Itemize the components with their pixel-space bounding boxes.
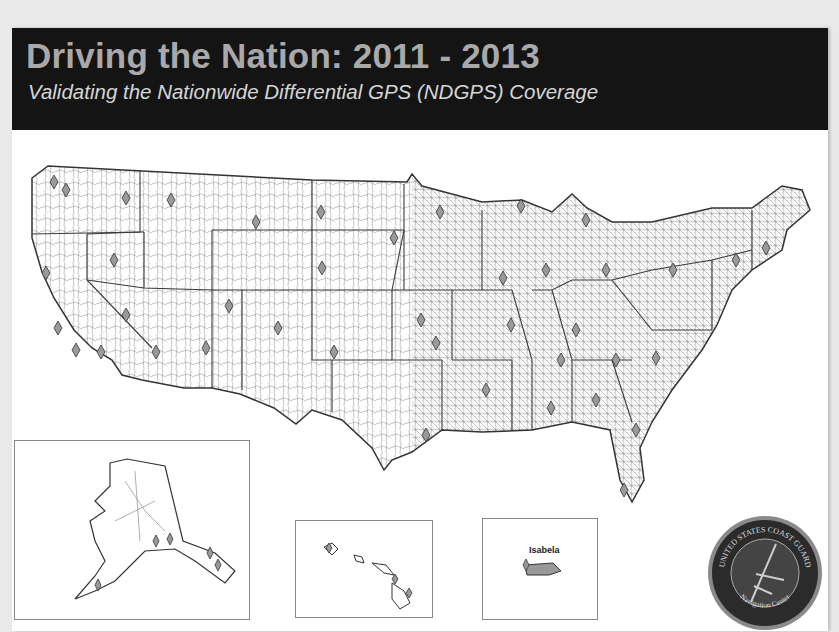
- map-area: Isabela UNITED STATES COAST GUARD Naviga…: [12, 130, 828, 631]
- header-banner: Driving the Nation: 2011 - 2013 Validati…: [12, 28, 828, 130]
- isabela-label: Isabela: [529, 545, 560, 555]
- alaska-map: [15, 441, 249, 619]
- poster: Driving the Nation: 2011 - 2013 Validati…: [12, 28, 828, 631]
- puerto-rico-inset: Isabela: [482, 518, 598, 620]
- page-subtitle: Validating the Nationwide Differential G…: [28, 80, 598, 104]
- puerto-rico-map: [483, 519, 597, 619]
- hawaii-map: [296, 521, 432, 617]
- alaska-inset: [14, 440, 250, 620]
- page-title: Driving the Nation: 2011 - 2013: [26, 36, 540, 76]
- coast-guard-seal: UNITED STATES COAST GUARD Navigation Cen…: [706, 514, 824, 632]
- hawaii-inset: [295, 520, 433, 618]
